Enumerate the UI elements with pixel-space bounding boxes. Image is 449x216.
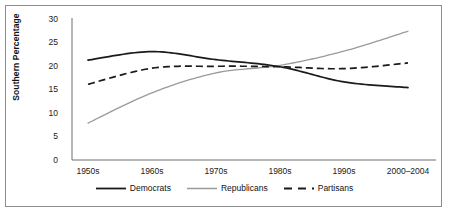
- line-chart: Southern Percentage 30 25 20 15 10 5 0 1…: [0, 0, 449, 216]
- legend-label-partisans: Partisans: [318, 183, 353, 193]
- series-line-partisans: [88, 63, 408, 84]
- legend-label-democrats: Democrats: [130, 183, 171, 193]
- solid-dark-line-swatch: [96, 184, 126, 193]
- legend-label-republicans: Republicans: [221, 183, 268, 193]
- series-line-democrats: [88, 52, 408, 88]
- legend-item-democrats: Democrats: [96, 183, 171, 193]
- chart-figure: Southern Percentage 30 25 20 15 10 5 0 1…: [0, 0, 449, 216]
- solid-gray-line-swatch: [187, 184, 217, 193]
- legend-item-partisans: Partisans: [284, 183, 353, 193]
- dashed-dark-line-swatch: [284, 184, 314, 193]
- legend-item-republicans: Republicans: [187, 183, 268, 193]
- series-line-republicans: [88, 31, 408, 123]
- chart-legend: Democrats Republicans Partisans: [0, 183, 449, 193]
